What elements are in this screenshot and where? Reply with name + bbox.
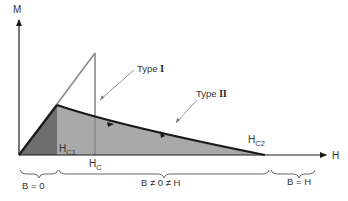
hc-label: HC: [89, 158, 102, 172]
pointer-arrowhead-icon: [100, 95, 104, 100]
magnetization-diagram: M H Type I Type II HC1 HC HC2 B = 0 B ≠ …: [0, 0, 348, 201]
hc2-label: HC2: [248, 134, 265, 148]
type2-region-mixed-fill: [57, 105, 265, 155]
type1-pointer: [100, 70, 134, 100]
region-label-meissner: B = 0: [22, 180, 44, 191]
region-label-mixed: B ≠ 0 ≠ H: [141, 177, 181, 188]
region-label-normal: B = H: [287, 176, 311, 187]
y-axis-label: M: [13, 4, 21, 15]
brace-meissner-region: [20, 170, 58, 178]
type2-label: Type II: [196, 88, 227, 99]
type1-label: Type I: [137, 63, 164, 74]
x-axis-label: H: [332, 150, 339, 161]
